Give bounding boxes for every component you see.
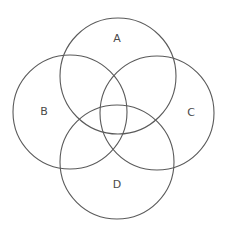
set-b-label: B [40, 105, 48, 118]
set-b-circle [13, 55, 127, 169]
set-d-label: D [113, 178, 121, 191]
venn-diagram: A B C D [0, 0, 225, 229]
set-d-circle [60, 105, 174, 219]
set-a-label: A [113, 32, 121, 45]
set-c-label: C [187, 106, 195, 119]
set-c-circle [100, 56, 214, 170]
